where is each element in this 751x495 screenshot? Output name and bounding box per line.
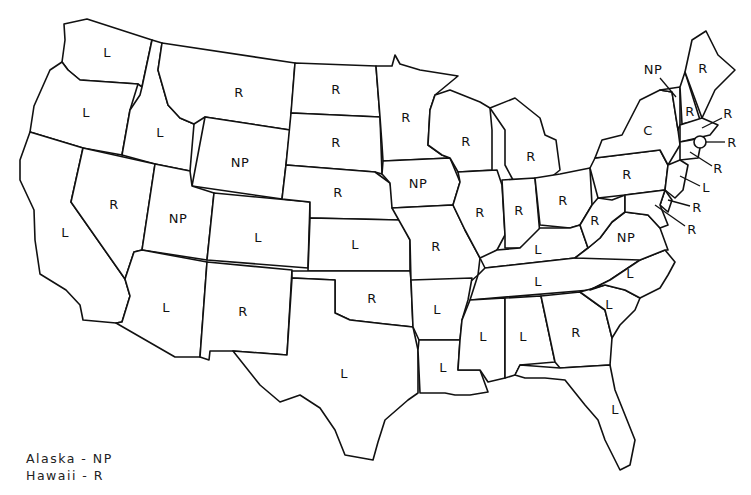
state-michigan[interactable] bbox=[490, 98, 560, 180]
label-virginia: NP bbox=[617, 230, 636, 245]
label-south-dakota: R bbox=[331, 135, 341, 150]
label-new-mexico: R bbox=[238, 304, 248, 319]
label-florida: L bbox=[611, 402, 619, 417]
state-kansas[interactable] bbox=[308, 218, 410, 271]
label-georgia: R bbox=[571, 325, 581, 340]
label-new-jersey: L bbox=[702, 180, 710, 195]
label-rhode-island: R bbox=[727, 135, 737, 150]
label-south-carolina: L bbox=[605, 297, 613, 312]
label-wisconsin: R bbox=[461, 134, 471, 149]
label-nebraska: R bbox=[333, 185, 343, 200]
label-massachusetts: R bbox=[723, 106, 733, 121]
label-indiana: R bbox=[514, 203, 524, 218]
label-connecticut: R bbox=[713, 161, 723, 176]
label-oklahoma: R bbox=[367, 291, 377, 306]
label-new-hampshire: R bbox=[685, 104, 695, 119]
us-map: L L L L R R NP NP L L R R R R L R L R NP… bbox=[0, 0, 751, 495]
label-kentucky: L bbox=[534, 242, 542, 257]
label-michigan: R bbox=[526, 149, 536, 164]
state-shapes bbox=[20, 19, 735, 470]
label-west-virginia: R bbox=[590, 213, 600, 228]
label-minnesota: R bbox=[401, 110, 411, 125]
label-maine: R bbox=[698, 61, 708, 76]
label-arkansas: L bbox=[433, 302, 441, 317]
label-texas: L bbox=[340, 366, 348, 381]
label-kansas: L bbox=[351, 237, 359, 252]
label-colorado: L bbox=[254, 230, 262, 245]
label-tennessee: L bbox=[534, 274, 542, 289]
legend-alaska: Alaska - NP bbox=[26, 450, 113, 467]
label-north-dakota: R bbox=[331, 82, 341, 97]
map-svg: L L L L R R NP NP L L R R R R L R L R NP… bbox=[0, 0, 751, 495]
label-nevada: R bbox=[109, 197, 119, 212]
state-montana[interactable] bbox=[158, 43, 295, 130]
label-ohio: R bbox=[558, 193, 568, 208]
legend: Alaska - NP Hawaii - R bbox=[26, 450, 113, 484]
label-delaware: R bbox=[692, 200, 702, 215]
label-pennsylvania: R bbox=[622, 167, 632, 182]
label-louisiana: L bbox=[439, 360, 447, 375]
label-idaho: L bbox=[156, 125, 164, 140]
label-washington: L bbox=[103, 45, 111, 60]
label-arizona: L bbox=[162, 300, 170, 315]
legend-hawaii: Hawaii - R bbox=[26, 467, 113, 484]
label-california: L bbox=[61, 225, 69, 240]
label-north-carolina: L bbox=[626, 266, 634, 281]
state-rhode-island[interactable] bbox=[694, 136, 706, 148]
state-florida[interactable] bbox=[515, 365, 635, 470]
label-maryland: R bbox=[687, 222, 697, 237]
label-illinois: R bbox=[475, 205, 485, 220]
label-vermont: NP bbox=[644, 62, 663, 77]
label-utah: NP bbox=[169, 211, 188, 226]
label-montana: R bbox=[234, 85, 244, 100]
label-missouri: R bbox=[431, 239, 441, 254]
label-oregon: L bbox=[82, 105, 90, 120]
label-alabama: L bbox=[519, 329, 527, 344]
label-mississippi: L bbox=[479, 329, 487, 344]
label-new-york: C bbox=[643, 123, 653, 138]
label-wyoming: NP bbox=[231, 155, 250, 170]
label-iowa: NP bbox=[409, 176, 428, 191]
